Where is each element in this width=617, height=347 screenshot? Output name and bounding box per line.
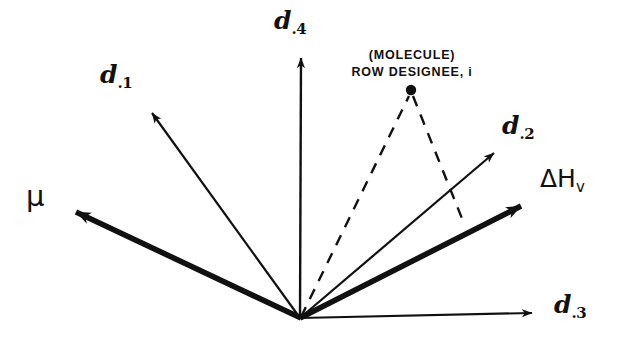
annotation-line-1: (MOLECULE) [327,47,497,64]
label-d1: d.1 [100,62,132,87]
label-d2: d.2 [502,113,534,138]
label-delta-hv: ΔHv [540,166,585,191]
label-delta-hv-base: ΔH [540,164,576,193]
label-d3-base: d [554,290,571,319]
label-d4: d.4 [274,8,306,33]
label-d1-sub: .1 [117,74,132,92]
label-d2-base: d [502,111,519,140]
annotation-line-2: ROW DESIGNEE, i [327,64,497,81]
vector-d1 [152,113,300,318]
label-d4-base: d [274,6,291,35]
vector-mu [76,212,301,318]
label-d1-base: d [100,60,117,89]
label-mu: μ [26,182,44,211]
label-d4-sub: .4 [291,20,306,38]
dashed-molecule-to-projection [413,96,465,226]
vector-d4 [300,58,301,318]
vector-canvas [0,0,617,347]
molecule-annotation: (MOLECULE) ROW DESIGNEE, i [327,47,497,81]
label-d3: d.3 [554,292,586,317]
dashed-origin-to-molecule [301,96,409,317]
label-d3-sub: .3 [571,304,586,322]
vector-d3 [300,313,532,318]
label-delta-hv-sub: v [576,178,585,196]
molecule-point-marker [406,85,416,95]
vector-diagram-figure: (MOLECULE) ROW DESIGNEE, i d.4 d.1 d.2 d… [0,0,617,347]
label-d2-sub: .2 [519,125,534,143]
